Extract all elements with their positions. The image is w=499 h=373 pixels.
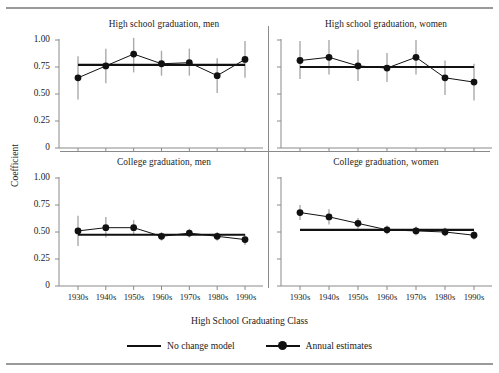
- x-axis-title: High School Graduating Class: [0, 315, 499, 326]
- y-tick-label: 1.00: [4, 172, 50, 182]
- legend-point-swatch: [266, 341, 300, 350]
- y-tick-label: 0: [4, 280, 50, 290]
- x-tick-label: 1990s: [222, 292, 270, 302]
- top-horizontal-rule: [6, 7, 493, 9]
- y-tick-label: 0.25: [4, 253, 50, 263]
- panel-title-col-men: College graduation, men: [60, 157, 268, 167]
- y-tick-label: 0.75: [4, 61, 50, 71]
- y-tick-label: 0: [4, 142, 50, 152]
- bottom-horizontal-rule: [6, 363, 493, 365]
- panel-title-hs-men: High school graduation, men: [60, 19, 268, 29]
- y-tick-label: 0.25: [4, 115, 50, 125]
- y-tick-label: 0.50: [4, 226, 50, 236]
- panel-divider-horizontal: [60, 151, 490, 152]
- y-tick-label: 1.00: [4, 34, 50, 44]
- panel-title-hs-women: High school graduation, women: [282, 19, 490, 29]
- legend-item-annual-estimates: Annual estimates: [266, 340, 372, 351]
- x-tick-label: 1990s: [450, 292, 498, 302]
- panel-title-col-women: College graduation, women: [282, 157, 490, 167]
- legend-label: No change model: [167, 340, 235, 351]
- legend-label: Annual estimates: [306, 340, 372, 351]
- y-axis-title: Coefficient: [9, 126, 20, 206]
- legend-line-swatch: [127, 345, 161, 347]
- y-tick-label: 0.50: [4, 88, 50, 98]
- panel-divider-vertical: [268, 26, 269, 288]
- y-tick-label: 0.75: [4, 199, 50, 209]
- legend-item-no-change-model: No change model: [127, 340, 235, 351]
- chart-legend: No change model Annual estimates: [0, 339, 499, 351]
